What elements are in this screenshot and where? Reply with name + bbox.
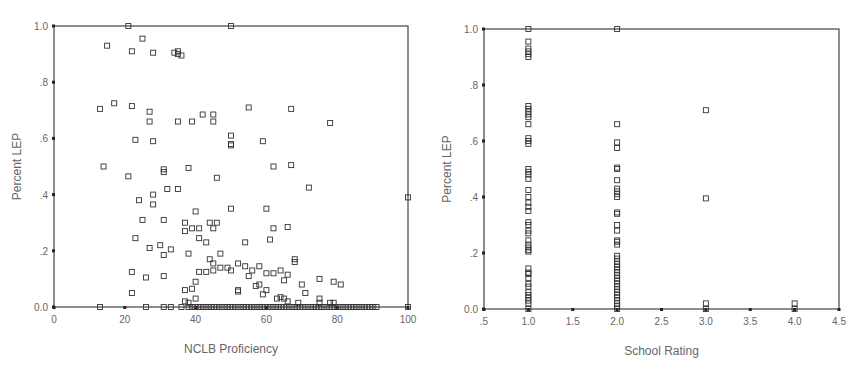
- x-tick-mark: [749, 308, 752, 311]
- x-tick-label: 3.5: [743, 316, 757, 327]
- data-point: [526, 195, 531, 200]
- data-point: [140, 217, 145, 222]
- data-point: [190, 286, 195, 291]
- data-point: [214, 175, 219, 180]
- data-point: [526, 39, 531, 44]
- data-point: [285, 224, 290, 229]
- x-tick-label: 1.0: [521, 316, 535, 327]
- y-tick-mark: [482, 28, 485, 31]
- x-tick-label: 20: [119, 314, 131, 325]
- data-point: [229, 206, 234, 211]
- data-point: [197, 269, 202, 274]
- data-point: [204, 240, 209, 245]
- y-tick-mark: [52, 249, 55, 252]
- data-point: [197, 236, 202, 241]
- data-point: [331, 279, 336, 284]
- data-point: [193, 209, 198, 214]
- x-axis-label: School Rating: [624, 344, 699, 358]
- y-tick-mark: [52, 81, 55, 84]
- x-tick-mark: [704, 308, 707, 311]
- data-point: [182, 229, 187, 234]
- data-point: [243, 264, 248, 269]
- y-tick-label: .4: [40, 190, 49, 201]
- data-point: [133, 137, 138, 142]
- data-point: [236, 288, 241, 293]
- data-point: [211, 226, 216, 231]
- data-point: [144, 275, 149, 280]
- x-tick-label: 0: [51, 314, 57, 325]
- data-point: [147, 119, 152, 124]
- x-tick-label: 4.0: [788, 316, 802, 327]
- data-point: [246, 274, 251, 279]
- data-point: [211, 268, 216, 273]
- y-tick-mark: [482, 140, 485, 143]
- y-tick-label: 0.0: [464, 304, 478, 315]
- data-point: [182, 288, 187, 293]
- data-point: [260, 139, 265, 144]
- data-point: [257, 282, 262, 287]
- x-tick-label: 60: [261, 314, 273, 325]
- data-point: [615, 140, 620, 145]
- data-point: [278, 268, 283, 273]
- data-point: [151, 139, 156, 144]
- scatter-chart-school-rating: 0.0.2.4.6.81.0.51.01.52.02.53.03.54.04.5…: [430, 0, 856, 372]
- data-point: [190, 226, 195, 231]
- data-point: [257, 264, 262, 269]
- y-tick-mark: [482, 196, 485, 199]
- data-point: [253, 283, 258, 288]
- data-point: [264, 206, 269, 211]
- y-tick-label: 1.0: [34, 21, 48, 32]
- data-point: [151, 202, 156, 207]
- data-point: [161, 274, 166, 279]
- data-point: [250, 268, 255, 273]
- x-tick-mark: [483, 308, 486, 311]
- x-tick-label: 2.5: [655, 316, 669, 327]
- data-point: [289, 106, 294, 111]
- x-tick-mark: [123, 306, 126, 309]
- y-tick-mark: [52, 137, 55, 140]
- data-point: [328, 120, 333, 125]
- y-tick-label: .6: [40, 133, 49, 144]
- y-tick-mark: [52, 25, 55, 28]
- data-point: [243, 240, 248, 245]
- data-point: [200, 112, 205, 117]
- data-point: [236, 289, 241, 294]
- data-point: [271, 226, 276, 231]
- data-point: [271, 271, 276, 276]
- y-tick-mark: [52, 193, 55, 196]
- data-point: [136, 198, 141, 203]
- data-point: [615, 178, 620, 183]
- data-point: [147, 109, 152, 114]
- data-point: [275, 296, 280, 301]
- x-tick-label: 4.5: [832, 316, 846, 327]
- data-point: [792, 301, 797, 306]
- x-tick-label: 3.0: [699, 316, 713, 327]
- x-tick-label: 100: [400, 314, 417, 325]
- data-point: [186, 165, 191, 170]
- y-tick-mark: [482, 84, 485, 87]
- y-tick-label: .4: [470, 192, 479, 203]
- y-tick-label: .6: [470, 136, 479, 147]
- data-point: [147, 245, 152, 250]
- data-point: [129, 104, 134, 109]
- y-axis-label: Percent LEP: [440, 135, 454, 202]
- data-point: [282, 278, 287, 283]
- data-point: [129, 269, 134, 274]
- y-tick-label: .8: [470, 80, 479, 91]
- data-point: [129, 290, 134, 295]
- data-point: [211, 112, 216, 117]
- data-point: [218, 265, 223, 270]
- data-point: [229, 143, 234, 148]
- data-point: [303, 290, 308, 295]
- data-point: [161, 253, 166, 258]
- data-point: [306, 185, 311, 190]
- data-point: [271, 164, 276, 169]
- data-point: [214, 220, 219, 225]
- data-point: [703, 301, 708, 306]
- x-tick-mark: [793, 308, 796, 311]
- data-point: [218, 251, 223, 256]
- data-point: [526, 188, 531, 193]
- x-tick-label: 2.0: [610, 316, 624, 327]
- data-point: [211, 119, 216, 124]
- data-point: [168, 247, 173, 252]
